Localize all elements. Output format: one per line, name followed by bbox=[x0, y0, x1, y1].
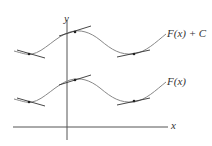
antiderivative-diagram bbox=[0, 0, 212, 146]
tangent-point bbox=[28, 53, 31, 56]
tangent-point bbox=[28, 101, 31, 104]
x-axis-label: x bbox=[171, 120, 176, 131]
tangent-point bbox=[133, 53, 136, 56]
curve-f-plus-c bbox=[14, 31, 166, 54]
tangent-point bbox=[74, 31, 77, 34]
label-f-plus-c: F(x) + C bbox=[167, 28, 206, 39]
curve-f bbox=[14, 79, 166, 102]
tangent-point bbox=[74, 79, 77, 82]
tangent-point bbox=[133, 100, 136, 103]
tangent-line bbox=[17, 50, 45, 58]
label-f: F(x) bbox=[167, 76, 186, 87]
tangent-line bbox=[17, 98, 45, 106]
y-axis-label: y bbox=[64, 13, 69, 24]
